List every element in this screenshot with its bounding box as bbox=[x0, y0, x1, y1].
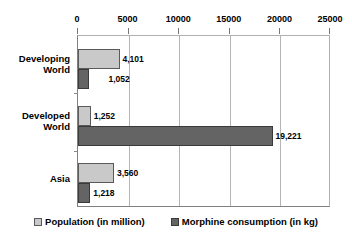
x-tick-label: 20000 bbox=[267, 14, 292, 24]
x-tick-mark bbox=[128, 28, 129, 34]
value-label-morphine-asia: 1,218 bbox=[93, 189, 114, 198]
bar-population-developed-world bbox=[78, 106, 91, 126]
x-tick-mark bbox=[77, 28, 78, 34]
chart-legend: Population (in million) Morphine consump… bbox=[0, 216, 352, 227]
category-label-asia: Asia bbox=[4, 173, 70, 184]
gridline-15000 bbox=[230, 36, 231, 206]
value-label-population-developing-world: 4,101 bbox=[123, 55, 144, 64]
legend-item-morphine: Morphine consumption (in kg) bbox=[171, 216, 318, 227]
value-label-population-asia: 3,560 bbox=[117, 169, 138, 178]
x-tick-label: 0 bbox=[74, 14, 79, 24]
category-label-line: World bbox=[4, 121, 70, 132]
x-tick-mark bbox=[329, 28, 330, 34]
x-tick-label: 10000 bbox=[166, 14, 191, 24]
x-tick-mark bbox=[178, 28, 179, 34]
x-tick-label: 15000 bbox=[216, 14, 241, 24]
category-label-developing-world: Developing World bbox=[4, 53, 70, 75]
category-label-line: World bbox=[4, 64, 70, 75]
legend-label: Population (in million) bbox=[45, 216, 145, 227]
gridline-20000 bbox=[280, 36, 281, 206]
legend-label: Morphine consumption (in kg) bbox=[182, 216, 318, 227]
bar-population-asia bbox=[78, 163, 114, 183]
bar-population-developing-world bbox=[78, 49, 120, 69]
bar-morphine-developing-world bbox=[78, 69, 89, 89]
legend-swatch-icon bbox=[171, 218, 179, 226]
bar-chart: 0 5000 10000 15000 20000 25000 Developin… bbox=[0, 0, 352, 244]
y-tick-mark bbox=[74, 151, 78, 152]
gridline-10000 bbox=[179, 36, 180, 206]
category-label-line: Asia bbox=[4, 173, 70, 184]
legend-swatch-icon bbox=[34, 218, 42, 226]
value-label-morphine-developed-world: 19,221 bbox=[276, 132, 302, 141]
bar-morphine-developed-world bbox=[78, 126, 273, 146]
x-tick-mark bbox=[279, 28, 280, 34]
value-label-morphine-developing-world: 1,052 bbox=[109, 75, 130, 84]
legend-item-population: Population (in million) bbox=[34, 216, 145, 227]
category-label-line: Developed bbox=[4, 110, 70, 121]
value-label-population-developed-world: 1,252 bbox=[94, 112, 115, 121]
plot-area: 4,101 1,052 1,252 19,221 3,560 1,218 bbox=[77, 35, 330, 207]
category-label-developed-world: Developed World bbox=[4, 110, 70, 132]
x-tick-label: 25000 bbox=[317, 14, 342, 24]
x-tick-mark bbox=[229, 28, 230, 34]
y-tick-mark bbox=[74, 93, 78, 94]
x-tick-label: 5000 bbox=[118, 14, 138, 24]
category-label-line: Developing bbox=[4, 53, 70, 64]
bar-morphine-asia bbox=[78, 183, 90, 203]
